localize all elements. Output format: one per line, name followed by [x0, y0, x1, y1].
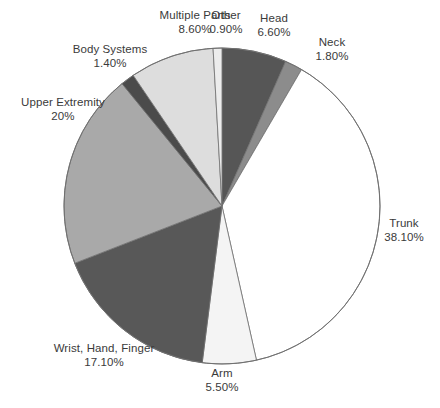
pie-label-arm-value: 5.50% — [194, 380, 250, 394]
pie-label-wrist-hand-finger: Wrist, Hand, Finger 17.10% — [36, 341, 172, 369]
pie-label-body-systems-name: Body Systems — [62, 42, 158, 56]
pie-label-other-name: Other — [200, 8, 252, 22]
pie-label-wrist-hand-finger-value: 17.10% — [36, 355, 172, 369]
pie-label-trunk-value: 38.10% — [373, 230, 435, 244]
pie-label-other-value: 0.90% — [200, 22, 252, 36]
pie-label-trunk: Trunk 38.10% — [373, 216, 435, 244]
pie-label-arm: Arm 5.50% — [194, 366, 250, 394]
pie-chart: Multiple Parts 8.60% Other 0.90% Head 6.… — [0, 0, 440, 408]
pie-label-head: Head 6.60% — [246, 11, 302, 39]
pie-label-wrist-hand-finger-name: Wrist, Hand, Finger — [36, 341, 172, 355]
pie-label-head-name: Head — [246, 11, 302, 25]
pie-label-other: Other 0.90% — [200, 8, 252, 36]
pie-label-head-value: 6.60% — [246, 25, 302, 39]
pie-label-neck-name: Neck — [304, 35, 360, 49]
pie-label-body-systems: Body Systems 1.40% — [62, 42, 158, 70]
pie-label-trunk-name: Trunk — [373, 216, 435, 230]
pie-label-neck-value: 1.80% — [304, 49, 360, 63]
pie-label-body-systems-value: 1.40% — [62, 56, 158, 70]
pie-label-neck: Neck 1.80% — [304, 35, 360, 63]
pie-label-upper-extremity-name: Upper Extremity — [8, 95, 118, 109]
pie-label-arm-name: Arm — [194, 366, 250, 380]
pie-label-upper-extremity-value: 20% — [8, 109, 118, 123]
pie-label-upper-extremity: Upper Extremity 20% — [8, 95, 118, 123]
